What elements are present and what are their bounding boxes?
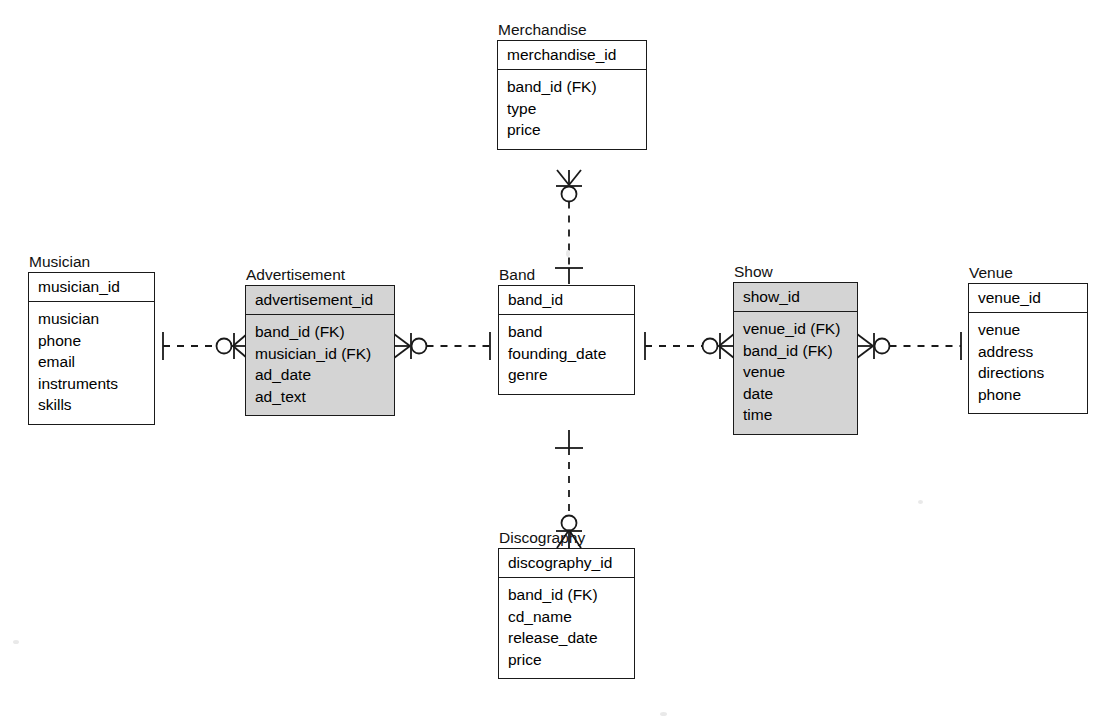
entity-discography[interactable]: Discography discography_id band_id (FK) …: [498, 548, 635, 679]
attribute-row: venue: [978, 319, 1078, 341]
primary-key-row: merchandise_id: [498, 41, 646, 70]
attribute-row: phone: [978, 384, 1078, 406]
attribute-row: price: [507, 119, 637, 141]
attribute-list: band_id (FK) musician_id (FK) ad_date ad…: [246, 315, 394, 415]
primary-key-row: show_id: [734, 283, 857, 312]
attribute-row: founding_date: [508, 343, 625, 365]
attribute-row: genre: [508, 364, 625, 386]
attribute-row: ad_date: [255, 364, 385, 386]
attribute-row: email: [38, 351, 145, 373]
attribute-row: musician: [38, 308, 145, 330]
attribute-row: band_id (FK): [255, 321, 385, 343]
scan-speckle: [13, 640, 19, 644]
primary-key-row: venue_id: [969, 284, 1087, 313]
entity-title-merchandise: Merchandise: [498, 21, 587, 39]
attribute-list: band founding_date genre: [499, 315, 634, 394]
attribute-row: phone: [38, 330, 145, 352]
attribute-row: time: [743, 404, 848, 426]
entity-title-advertisement: Advertisement: [246, 266, 345, 284]
entity-title-musician: Musician: [29, 253, 90, 271]
attribute-row: band_id (FK): [508, 584, 625, 606]
primary-key-row: advertisement_id: [246, 286, 394, 315]
attribute-row: date: [743, 383, 848, 405]
attribute-row: band_id (FK): [743, 340, 848, 362]
attribute-row: venue_id (FK): [743, 318, 848, 340]
entity-musician[interactable]: Musician musician_id musician phone emai…: [28, 272, 155, 425]
attribute-list: venue address directions phone: [969, 313, 1087, 413]
entity-venue[interactable]: Venue venue_id venue address directions …: [968, 283, 1088, 414]
attribute-row: musician_id (FK): [255, 343, 385, 365]
scan-speckle: [660, 712, 667, 716]
entity-box-venue: venue_id venue address directions phone: [968, 283, 1088, 414]
attribute-row: instruments: [38, 373, 145, 395]
entity-box-discography: discography_id band_id (FK) cd_name rele…: [498, 548, 635, 679]
entity-box-band: band_id band founding_date genre: [498, 285, 635, 395]
scan-speckle: [918, 500, 923, 504]
attribute-list: musician phone email instruments skills: [29, 302, 154, 424]
entity-title-band: Band: [499, 266, 535, 284]
attribute-list: venue_id (FK) band_id (FK) venue date ti…: [734, 312, 857, 434]
entity-title-show: Show: [734, 263, 773, 281]
attribute-list: band_id (FK) type price: [498, 70, 646, 149]
relationship-band-show[interactable]: [637, 325, 734, 367]
entity-title-discography: Discography: [499, 529, 585, 547]
entity-box-show: show_id venue_id (FK) band_id (FK) venue…: [733, 282, 858, 435]
entity-box-advertisement: advertisement_id band_id (FK) musician_i…: [245, 285, 395, 416]
attribute-row: address: [978, 341, 1078, 363]
entity-band[interactable]: Band band_id band founding_date genre: [498, 285, 635, 395]
attribute-row: band_id (FK): [507, 76, 637, 98]
attribute-row: directions: [978, 362, 1078, 384]
relationship-musician-advertisement[interactable]: [155, 325, 247, 367]
entity-box-musician: musician_id musician phone email instrum…: [28, 272, 155, 425]
attribute-list: band_id (FK) cd_name release_date price: [499, 578, 634, 678]
relationship-advertisement-band[interactable]: [394, 325, 498, 367]
entity-advertisement[interactable]: Advertisement advertisement_id band_id (…: [245, 285, 395, 416]
entity-title-venue: Venue: [969, 264, 1013, 282]
attribute-row: band: [508, 321, 625, 343]
attribute-row: price: [508, 649, 625, 671]
attribute-row: venue: [743, 361, 848, 383]
attribute-row: skills: [38, 394, 145, 416]
primary-key-row: discography_id: [499, 549, 634, 578]
entity-merchandise[interactable]: Merchandise merchandise_id band_id (FK) …: [497, 40, 647, 150]
relationship-show-venue[interactable]: [857, 325, 969, 367]
entity-show[interactable]: Show show_id venue_id (FK) band_id (FK) …: [733, 282, 858, 435]
attribute-row: release_date: [508, 627, 625, 649]
primary-key-row: musician_id: [29, 273, 154, 302]
relationship-merchandise-band[interactable]: [548, 170, 590, 286]
attribute-row: type: [507, 98, 637, 120]
er-diagram-canvas: Merchandise merchandise_id band_id (FK) …: [0, 0, 1115, 726]
attribute-row: cd_name: [508, 606, 625, 628]
primary-key-row: band_id: [499, 286, 634, 315]
attribute-row: ad_text: [255, 386, 385, 408]
entity-box-merchandise: merchandise_id band_id (FK) type price: [497, 40, 647, 150]
